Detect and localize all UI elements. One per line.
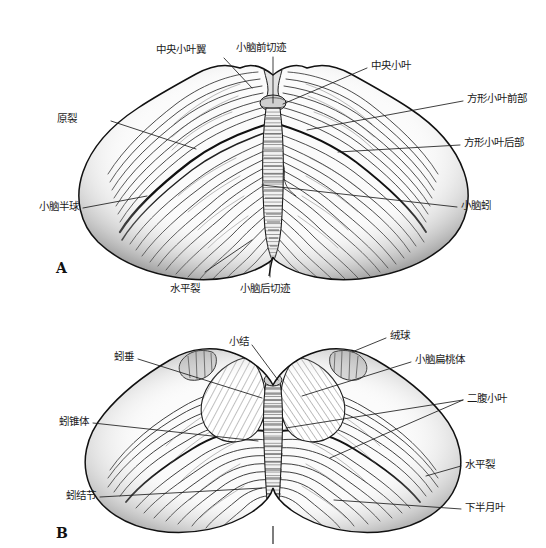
- label-horizontal-fissure-b: 水平裂: [465, 458, 496, 470]
- label-horizontal-fissure-a: 水平裂: [170, 282, 201, 294]
- label-posterior-cerebellar-notch: 小脑后切迹: [240, 282, 291, 294]
- label-nodule: 小结: [229, 335, 249, 347]
- label-vermis: 小脑蚓: [461, 199, 491, 211]
- label-pyramid-of-vermis: 蚓锥体: [59, 415, 90, 427]
- panel-letter-a: A: [55, 260, 68, 276]
- label-cerebellar-hemisphere: 小脑半球: [39, 200, 80, 212]
- label-primary-fissure: 原裂: [57, 112, 78, 124]
- figure-canvas: 中央小叶翼 小脑前切迹 中央小叶 方形小叶前部 方形小叶后部 原裂 小脑半球 小…: [0, 0, 546, 548]
- cerebellum-figure: 中央小叶翼 小脑前切迹 中央小叶 方形小叶前部 方形小叶后部 原裂 小脑半球 小…: [0, 0, 546, 548]
- label-anterior-cerebellar-notch: 小脑前切迹: [236, 41, 287, 53]
- label-cerebellar-tonsil: 小脑扁桃体: [415, 353, 466, 365]
- label-quadrangular-lobule-posterior: 方形小叶后部: [464, 136, 524, 148]
- label-tuber-of-vermis: 蚓结节: [66, 489, 96, 501]
- label-quadrangular-lobule-anterior: 方形小叶前部: [467, 92, 527, 104]
- label-central-lobule: 中央小叶: [371, 59, 412, 71]
- label-uvula: 蚓垂: [114, 350, 134, 362]
- panel-letter-b: B: [56, 525, 68, 541]
- label-flocculus: 绒球: [390, 329, 411, 341]
- label-central-lobule-wing: 中央小叶翼: [156, 43, 207, 55]
- label-biventral-lobule: 二腹小叶: [467, 392, 508, 404]
- label-inferior-semilunar-lobule: 下半月叶: [465, 501, 506, 513]
